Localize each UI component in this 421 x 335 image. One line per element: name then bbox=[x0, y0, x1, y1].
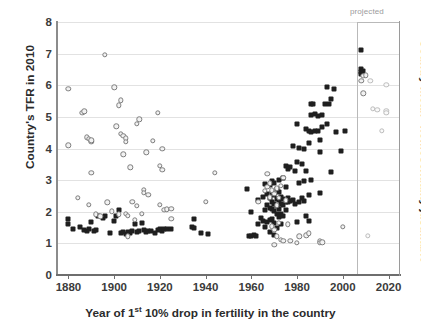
y-tick-label-7: 7 bbox=[46, 48, 52, 60]
data-point-s0-107 bbox=[295, 121, 300, 126]
data-point-s0-33 bbox=[157, 227, 162, 232]
data-point-s1-57 bbox=[267, 194, 272, 199]
data-point-s1-17 bbox=[114, 124, 119, 129]
data-point-s0-35 bbox=[162, 226, 167, 231]
x-tick-label-1960: 1960 bbox=[239, 281, 265, 293]
data-point-s0-38 bbox=[189, 224, 194, 229]
data-point-s0-127 bbox=[308, 130, 313, 135]
data-point-s0-45 bbox=[249, 233, 254, 238]
gridline-y-8 bbox=[57, 22, 400, 23]
data-point-s1-29 bbox=[127, 165, 132, 170]
data-point-s0-105 bbox=[292, 169, 297, 174]
data-point-s1-72 bbox=[283, 198, 288, 203]
x-tick-mark-1980 bbox=[297, 274, 298, 279]
data-point-s0-83 bbox=[276, 198, 281, 203]
data-point-s1-58 bbox=[269, 188, 274, 193]
data-point-s0-100 bbox=[285, 200, 290, 205]
data-point-s0-37 bbox=[169, 227, 174, 232]
data-point-s0-96 bbox=[283, 199, 288, 204]
data-point-s0-52 bbox=[260, 194, 265, 199]
data-point-s0-62 bbox=[267, 205, 272, 210]
data-point-s0-0 bbox=[66, 216, 71, 221]
data-point-s1-6 bbox=[86, 136, 91, 141]
data-point-s0-36 bbox=[164, 227, 169, 232]
data-point-s0-18 bbox=[121, 230, 126, 235]
gridline-y-3 bbox=[57, 180, 400, 181]
y-tick-label-0: 0 bbox=[46, 269, 52, 281]
data-point-s0-112 bbox=[297, 200, 302, 205]
data-point-s0-91 bbox=[281, 197, 286, 202]
data-point-s0-22 bbox=[130, 229, 135, 234]
data-point-s0-120 bbox=[304, 214, 309, 219]
y-tick-label-4: 4 bbox=[46, 143, 52, 155]
data-point-s0-67 bbox=[269, 200, 274, 205]
data-point-s1-37 bbox=[141, 190, 146, 195]
data-point-s0-11 bbox=[100, 216, 105, 221]
data-point-s1-9 bbox=[89, 138, 94, 143]
data-point-s1-10 bbox=[89, 170, 94, 175]
data-point-s0-106 bbox=[292, 202, 297, 207]
x-tick-mark-2020 bbox=[389, 274, 390, 279]
gridline-y-5 bbox=[57, 117, 400, 118]
data-point-s0-124 bbox=[306, 218, 311, 223]
data-point-s0-118 bbox=[304, 126, 309, 131]
data-point-s0-152 bbox=[359, 71, 364, 76]
data-point-s0-44 bbox=[247, 234, 252, 239]
gridline-y-6 bbox=[57, 85, 400, 86]
y-tick-label-2: 2 bbox=[46, 206, 52, 218]
data-point-s0-87 bbox=[279, 201, 284, 206]
y-tick-label-8: 8 bbox=[46, 16, 52, 28]
data-point-s0-146 bbox=[333, 130, 338, 135]
data-point-s0-135 bbox=[317, 149, 322, 154]
data-point-s0-93 bbox=[281, 213, 286, 218]
data-point-s0-134 bbox=[317, 137, 322, 142]
data-point-s1-68 bbox=[278, 183, 283, 188]
data-point-s0-123 bbox=[306, 193, 311, 198]
data-point-s0-80 bbox=[274, 226, 279, 231]
data-point-s0-74 bbox=[272, 220, 277, 225]
data-point-s0-4 bbox=[82, 228, 87, 233]
data-point-s1-67 bbox=[276, 220, 281, 225]
data-point-s0-14 bbox=[112, 218, 117, 223]
data-point-s1-42 bbox=[157, 163, 162, 168]
data-point-s0-48 bbox=[253, 234, 258, 239]
x-tick-mark-1900 bbox=[114, 274, 115, 279]
x-axis-line bbox=[56, 274, 401, 276]
data-point-s0-41 bbox=[199, 231, 204, 236]
data-point-s0-77 bbox=[274, 197, 279, 202]
data-point-s0-92 bbox=[281, 202, 286, 207]
data-point-s1-8 bbox=[89, 139, 94, 144]
data-point-s1-64 bbox=[274, 203, 279, 208]
x-axis-title-part1: Year of 1 bbox=[85, 306, 134, 320]
data-point-s1-0 bbox=[66, 86, 71, 91]
x-tick-label-1900: 1900 bbox=[101, 281, 127, 293]
data-point-s1-90 bbox=[374, 107, 379, 112]
data-point-s1-12 bbox=[98, 213, 103, 218]
x-axis-title: Year of 1st 10% drop in fertility in the… bbox=[0, 305, 421, 320]
x-tick-mark-1920 bbox=[160, 274, 161, 279]
data-point-s0-98 bbox=[285, 166, 290, 171]
data-point-s0-9 bbox=[93, 228, 98, 233]
data-point-s1-53 bbox=[262, 188, 267, 193]
data-point-s0-129 bbox=[311, 101, 316, 106]
y-tick-label-5: 5 bbox=[46, 111, 52, 123]
data-point-s0-69 bbox=[269, 216, 274, 221]
data-point-s1-66 bbox=[276, 195, 281, 200]
data-point-s1-27 bbox=[125, 213, 130, 218]
data-point-s1-23 bbox=[121, 151, 126, 156]
data-point-s1-20 bbox=[118, 98, 123, 103]
x-tick-label-1940: 1940 bbox=[193, 281, 219, 293]
data-point-s0-32 bbox=[155, 228, 160, 233]
data-point-s0-111 bbox=[297, 181, 302, 186]
data-point-s0-64 bbox=[267, 229, 272, 234]
data-point-s0-131 bbox=[313, 129, 318, 134]
data-point-s0-82 bbox=[276, 189, 281, 194]
data-point-s0-60 bbox=[267, 183, 272, 188]
data-point-s0-25 bbox=[137, 228, 142, 233]
data-point-s0-149 bbox=[359, 47, 364, 52]
x-tick-mark-1960 bbox=[251, 274, 252, 279]
data-point-s0-42 bbox=[205, 231, 210, 236]
data-point-s1-85 bbox=[361, 91, 366, 96]
data-point-s0-85 bbox=[276, 214, 281, 219]
data-point-s0-15 bbox=[114, 213, 119, 218]
